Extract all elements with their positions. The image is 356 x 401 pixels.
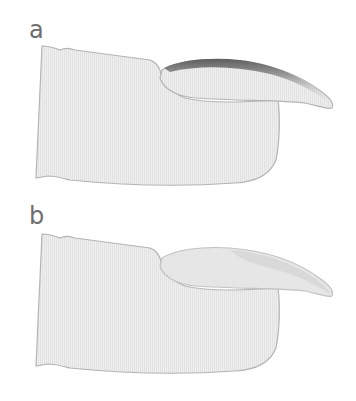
finger-illustration-a <box>0 0 356 200</box>
panel-a: a <box>0 0 356 200</box>
panel-b: b <box>0 188 356 388</box>
finger-illustration-b <box>0 188 356 388</box>
